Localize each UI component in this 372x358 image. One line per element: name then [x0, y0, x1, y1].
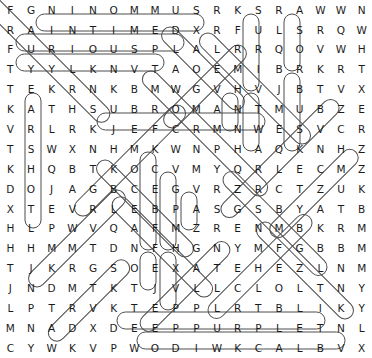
mark-vertical-col14-mid — [284, 73, 300, 151]
mark-vertical-col1-mid — [25, 93, 41, 228]
word-search-puzzle: FGNINOMMUSRKSRAWWNRAINTIMEDXRFULSRQWFURI… — [0, 0, 372, 358]
mark-deeppurple — [117, 312, 325, 329]
found-word-markings — [0, 0, 372, 358]
mark-blackwidow — [137, 332, 345, 349]
mark-raintime — [16, 34, 184, 51]
mark-vertical-col6-low — [140, 252, 156, 290]
mark-diag-1 — [0, 0, 113, 126]
mark-vertical-col14-top — [284, 14, 300, 71]
mark-diag-9 — [109, 193, 216, 300]
mark-diag-14 — [139, 67, 271, 199]
mark-vertical-col12-top — [243, 14, 259, 91]
mark-diag-16 — [160, 42, 250, 132]
mark-diag-8 — [204, 211, 315, 322]
mark-diagonal-group — [0, 0, 362, 345]
mark-vertical-col8 — [181, 192, 197, 230]
mark-summoning — [36, 14, 204, 31]
mark-diag-13 — [266, 146, 361, 241]
mark-vertical-col10 — [222, 93, 238, 131]
mark-vertical-col7-low — [160, 252, 176, 310]
mark-vertical-col6 — [140, 152, 156, 250]
mark-diag-7 — [219, 168, 330, 279]
mark-diag-6 — [217, 96, 342, 221]
